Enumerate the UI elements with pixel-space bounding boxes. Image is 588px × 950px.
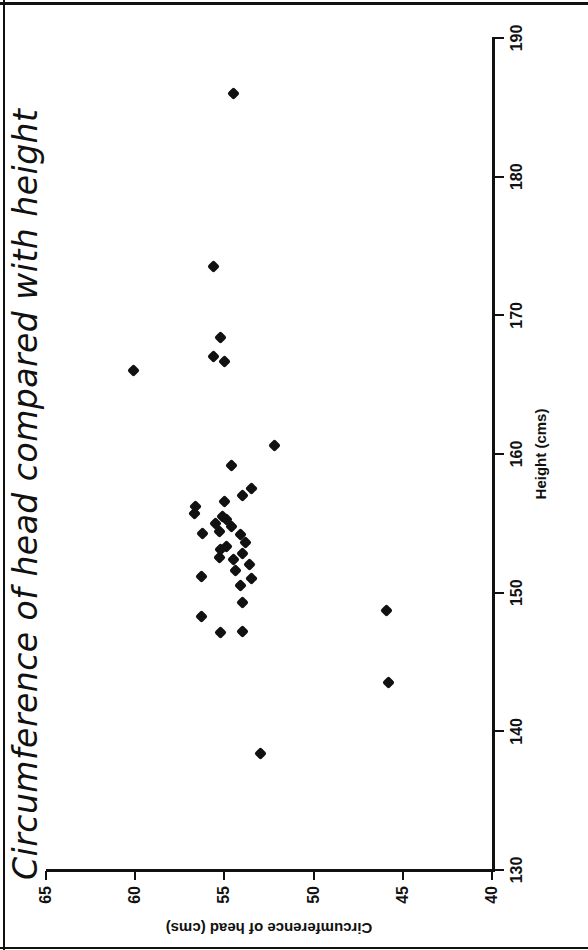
data-point: [127, 364, 140, 377]
y-tick-mark: [313, 871, 315, 880]
data-point: [234, 579, 247, 592]
data-point: [245, 572, 258, 585]
data-point: [214, 331, 227, 344]
x-tick-mark: [495, 453, 504, 455]
data-point: [197, 527, 210, 540]
data-point: [218, 355, 231, 368]
x-tick-label: 140: [508, 718, 526, 745]
y-tick-mark: [402, 871, 404, 880]
chart-title: Circumference of head compared with heig…: [6, 109, 45, 880]
data-point: [268, 439, 281, 452]
plot-area: [46, 38, 492, 870]
x-tick-label: 160: [508, 441, 526, 468]
data-point: [195, 570, 208, 583]
data-point: [218, 495, 231, 508]
y-tick-mark: [223, 871, 225, 880]
y-axis-title: Circumference of head (cms): [166, 920, 373, 937]
x-tick-label: 180: [508, 163, 526, 190]
y-tick-mark: [134, 871, 136, 880]
data-point: [229, 564, 242, 577]
data-point: [254, 747, 267, 760]
data-point: [382, 676, 395, 689]
x-tick-label: 150: [508, 579, 526, 606]
scatter-chart: Circumference of head compared with heig…: [0, 0, 588, 950]
data-point: [380, 604, 393, 617]
x-tick-mark: [495, 314, 504, 316]
data-point: [195, 610, 208, 623]
data-point: [236, 489, 249, 502]
x-tick-mark: [495, 869, 504, 871]
x-tick-mark: [495, 176, 504, 178]
x-tick-mark: [495, 730, 504, 732]
data-point: [214, 627, 227, 640]
y-tick-label: 65: [37, 886, 55, 904]
data-point: [207, 260, 220, 273]
x-tick-label: 190: [508, 25, 526, 52]
y-tick-label: 40: [483, 886, 501, 904]
data-point: [236, 625, 249, 638]
y-tick-label: 45: [394, 886, 412, 904]
data-point: [227, 87, 240, 100]
data-point: [243, 559, 256, 572]
y-tick-label: 50: [305, 886, 323, 904]
scanned-page: Circumference of head compared with heig…: [0, 0, 588, 950]
y-tick-label: 55: [215, 886, 233, 904]
y-tick-label: 60: [126, 886, 144, 904]
data-point: [225, 459, 238, 472]
rotated-figure-wrapper: Circumference of head compared with heig…: [0, 0, 588, 950]
x-axis-title: Height (cms): [532, 409, 549, 500]
y-tick-mark: [45, 871, 47, 880]
x-tick-label: 130: [508, 857, 526, 884]
data-point: [236, 596, 249, 609]
x-tick-label: 170: [508, 302, 526, 329]
y-tick-mark: [491, 871, 493, 880]
x-tick-mark: [495, 37, 504, 39]
x-tick-mark: [495, 592, 504, 594]
